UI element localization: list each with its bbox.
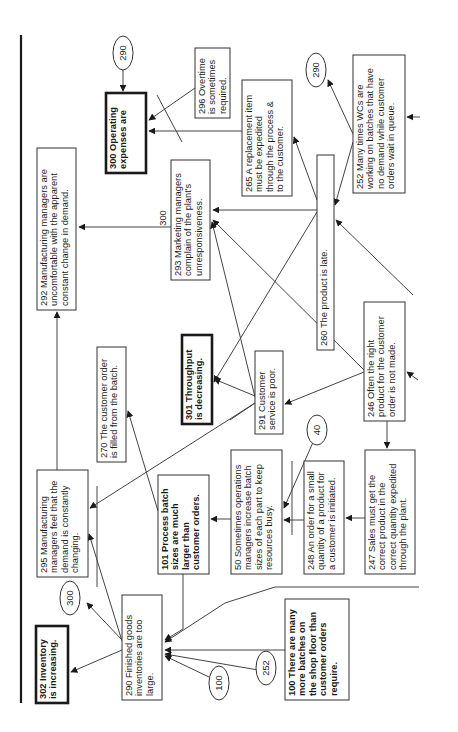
node-text-line: 301 Throughput bbox=[184, 350, 194, 420]
node-text-line: 101 Process batch bbox=[160, 488, 170, 570]
node-text-line: 302 Inventory bbox=[38, 638, 48, 699]
node-text-line: required. bbox=[218, 77, 228, 114]
node-text-line: no demand while customer bbox=[376, 78, 386, 189]
node-text-line: complain of the plant's bbox=[183, 183, 193, 276]
node-text-line: expenses are bbox=[118, 110, 128, 169]
node-247: 247 Sales must get thecorrect product in… bbox=[365, 450, 415, 574]
node-text-line: large. bbox=[145, 673, 155, 696]
node-text-line: managers feel that the bbox=[49, 480, 59, 573]
node-text-line: 247 Sales must get the bbox=[367, 475, 377, 570]
connector-252: 252 bbox=[256, 651, 276, 685]
node-text-line: 252 Many times WCs are bbox=[355, 85, 365, 189]
node-292: 292 Manufacturing managers areuncomforta… bbox=[37, 148, 76, 310]
node-text-line: through the process & bbox=[265, 100, 275, 192]
node-text-line: 293 Marketing managers bbox=[173, 173, 183, 276]
svg-text:300: 300 bbox=[65, 590, 75, 606]
label-300: 300 bbox=[158, 210, 168, 226]
node-300: 300 Operatingexpenses are bbox=[106, 93, 146, 173]
svg-text:252: 252 bbox=[261, 660, 271, 676]
connector-40: 40 bbox=[307, 415, 327, 445]
node-248: 248 An order for a smallquantity of a pr… bbox=[304, 461, 344, 574]
node-101: 101 Process batchsizes are muchlarger th… bbox=[158, 475, 209, 574]
node-text-line: 50 Sometimes operations bbox=[233, 464, 243, 570]
node-text-line: 290 Finished goods bbox=[124, 615, 134, 696]
node-301: 301 Throughputis decreasing. bbox=[182, 335, 212, 424]
node-text-line: is increasing. bbox=[48, 640, 58, 699]
node-text-line: demand is constantly bbox=[60, 485, 70, 573]
node-295: 295 Manufacturingmanagers feel that thed… bbox=[37, 470, 88, 577]
node-text-line: 100 There are many bbox=[287, 608, 297, 696]
node-text-line: order is not made. bbox=[387, 342, 397, 417]
node-text-line: service is poor. bbox=[267, 368, 277, 430]
node-text-line: constant change in demand. bbox=[60, 189, 70, 306]
node-text-line: to the customer. bbox=[275, 126, 285, 192]
node-text-line: the shop floor than bbox=[308, 611, 318, 696]
node-100: 100 There are manymore batches onthe sho… bbox=[285, 599, 349, 700]
node-291: 291 Customerservice is poor. bbox=[255, 351, 283, 434]
node-50: 50 Sometimes operationsmanagers increase… bbox=[231, 450, 282, 574]
node-text-line: resources busy. bbox=[264, 505, 274, 570]
node-text-line: customer orders. bbox=[191, 494, 201, 570]
node-text-line: correct product in the bbox=[377, 483, 387, 570]
node-text-line: 260 The product is late. bbox=[319, 249, 329, 346]
node-text-line: sizes are much bbox=[170, 503, 180, 570]
node-text-line: 292 Manufacturing managers are bbox=[39, 169, 49, 306]
node-text-line: a customer is initiated. bbox=[327, 478, 337, 571]
node-246: 246 Often the rightproduct for the custo… bbox=[364, 302, 405, 421]
node-252: 252 Many times WCs areworking on batches… bbox=[353, 55, 405, 193]
node-text-line: 291 Customer bbox=[257, 372, 267, 430]
svg-text:290: 290 bbox=[118, 45, 128, 61]
node-text-line: 295 Manufacturing bbox=[39, 496, 49, 573]
node-text-line: unresponsiveness. bbox=[194, 198, 204, 276]
node-text-line: correct quantity expedited bbox=[388, 464, 398, 570]
node-text-line: customer orders bbox=[318, 623, 328, 696]
node-text-line: inventories are too bbox=[134, 620, 144, 697]
node-text-line: changing. bbox=[70, 533, 80, 573]
node-text-line: require. bbox=[329, 662, 339, 696]
connector-100: 100 bbox=[209, 666, 229, 700]
node-text-line: 270 The customer order bbox=[99, 359, 109, 458]
svg-text:290: 290 bbox=[311, 62, 321, 78]
node-text-line: working on batches that have bbox=[365, 68, 375, 190]
node-302: 302 Inventoryis increasing. bbox=[36, 626, 68, 703]
node-text-line: 246 Often the right bbox=[366, 340, 376, 417]
node-text-line: is decreasing. bbox=[194, 358, 204, 420]
node-text-line: 300 Operating bbox=[108, 107, 118, 169]
connector-300-left: 300 bbox=[60, 581, 80, 615]
node-260: 260 The product is late. bbox=[317, 155, 334, 350]
node-text-line: through the plant. bbox=[398, 498, 408, 570]
node-293: 293 Marketing managerscomplain of the pl… bbox=[171, 160, 210, 280]
node-text-line: quantity of a product for bbox=[316, 472, 326, 570]
node-270: 270 The customer orderis filled from the… bbox=[97, 347, 126, 462]
node-296: 296 Overtimeis sometimesrequired. bbox=[195, 48, 230, 118]
node-290: 290 Finished goodsinventories are toolar… bbox=[122, 595, 162, 700]
node-text-line: is filled from the batch. bbox=[109, 365, 119, 458]
node-text-line: 248 An order for a small bbox=[306, 471, 316, 570]
node-text-line: larger than bbox=[181, 522, 191, 570]
node-text-line: is sometimes bbox=[207, 59, 217, 114]
node-text-line: 296 Overtime bbox=[197, 58, 207, 114]
connector-290-right: 290 bbox=[306, 53, 326, 87]
node-text-line: must be expedited bbox=[254, 116, 264, 192]
svg-text:40: 40 bbox=[312, 425, 322, 435]
node-text-line: product for the customer bbox=[376, 316, 386, 417]
nodes: 300 Operatingexpenses are296 Overtimeis … bbox=[36, 48, 415, 703]
svg-text:100: 100 bbox=[214, 675, 224, 691]
node-265: 265 A replacement itemmust be expeditedt… bbox=[242, 80, 292, 196]
connector-290-top: 290 bbox=[113, 36, 133, 70]
node-text-line: managers increase batch bbox=[243, 466, 253, 570]
node-text-line: uncomfortable with the apparent bbox=[49, 173, 59, 306]
node-text-line: orders wait in queue. bbox=[386, 103, 396, 189]
node-text-line: 265 A replacement item bbox=[244, 95, 254, 192]
node-text-line: sizes of each part to keep bbox=[254, 464, 264, 570]
current-reality-tree-diagram: 290 290 300 40 100 252 300 300 Operating… bbox=[0, 0, 458, 732]
node-text-line: more batches on bbox=[297, 621, 307, 696]
